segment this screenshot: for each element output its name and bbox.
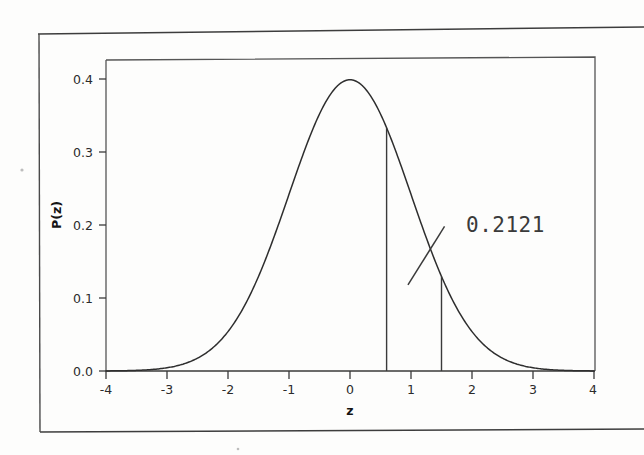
y-tick-label-0.3: 0.3 [73, 145, 93, 160]
scan-speck [20, 168, 23, 171]
x-tick-label-4: 4 [589, 382, 597, 397]
y-tick-label-0.4: 0.4 [73, 72, 93, 87]
y-tick-label-0.0: 0.0 [73, 364, 93, 379]
scan-speck [237, 448, 240, 451]
y-axis-ticks [99, 79, 106, 371]
normal-distribution-figure: -4 -3 -2 -1 0 1 2 3 4 z 0.0 0.1 0.2 0.3 … [0, 0, 644, 455]
y-tick-label-0.1: 0.1 [73, 291, 93, 306]
x-tick-label-3: 3 [529, 382, 537, 397]
x-tick-label--4: -4 [100, 382, 113, 397]
x-tick-label--1: -1 [283, 382, 295, 397]
figure-box-left-edge [39, 34, 40, 432]
x-tick-label-0: 0 [346, 382, 354, 397]
y-axis-tick-labels: 0.0 0.1 0.2 0.3 0.4 [73, 72, 93, 379]
y-axis-title: P(z) [49, 201, 64, 229]
x-tick-label--2: -2 [222, 382, 234, 397]
x-tick-label--3: -3 [161, 382, 173, 397]
page-top-rule [38, 27, 644, 34]
x-tick-label-2: 2 [468, 382, 476, 397]
page-bottom-rule [40, 429, 644, 432]
annotation-leader-line [408, 226, 445, 284]
x-axis-tick-labels: -4 -3 -2 -1 0 1 2 3 4 [100, 382, 597, 397]
x-axis-title: z [346, 403, 353, 418]
x-axis-ticks [106, 371, 594, 379]
annotation-probability-value: 0.2121 [466, 213, 545, 237]
y-tick-label-0.2: 0.2 [73, 218, 93, 233]
x-tick-label-1: 1 [407, 382, 415, 397]
